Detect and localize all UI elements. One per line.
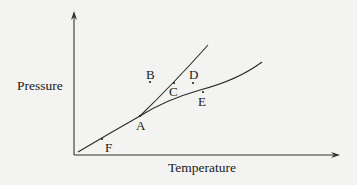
- point-b-label: B: [146, 67, 155, 82]
- phase-diagram: B C D E A F Pressure Temperature: [0, 0, 357, 185]
- point-e-dot: [202, 91, 204, 93]
- point-f-label: F: [105, 140, 112, 155]
- axes: [74, 13, 338, 155]
- point-a-dot: [139, 115, 141, 117]
- x-axis-label: Temperature: [168, 160, 236, 175]
- y-axis-label: Pressure: [17, 78, 63, 93]
- point-d-dot: [192, 82, 194, 84]
- point-a-label: A: [136, 118, 146, 133]
- point-e-label: E: [198, 94, 206, 109]
- point-d-label: D: [189, 67, 198, 82]
- point-f-dot: [101, 138, 103, 140]
- point-c-label: C: [169, 84, 178, 99]
